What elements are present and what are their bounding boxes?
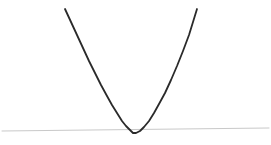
parabola-chart-svg [0,0,271,145]
chart-background [0,0,271,145]
figure-canvas [0,0,271,145]
